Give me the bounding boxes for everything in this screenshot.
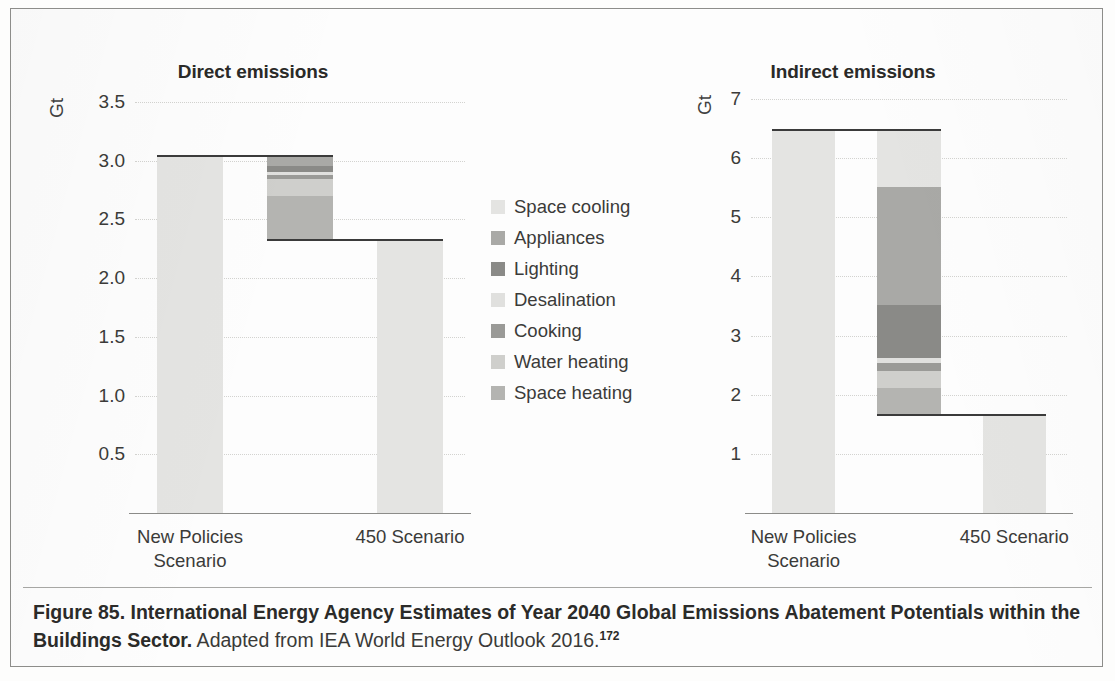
legend-item-label: Cooking bbox=[514, 320, 582, 342]
waterfall-connector-line bbox=[157, 155, 333, 157]
legend-item-label: Lighting bbox=[514, 258, 579, 280]
y-axis-tick-label: 0.5 bbox=[99, 443, 125, 465]
y-axis-unit-indirect: Gt bbox=[694, 95, 716, 115]
caption-divider bbox=[23, 587, 1092, 588]
bar-segment bbox=[877, 305, 940, 358]
x-axis-tick-label: New PoliciesScenario bbox=[137, 525, 243, 574]
x-axis-baseline bbox=[745, 513, 1073, 514]
stacked-bar bbox=[267, 155, 333, 240]
x-axis-tick-line: New Policies bbox=[751, 525, 857, 549]
x-axis-tick-label: New PoliciesScenario bbox=[751, 525, 857, 574]
plot-direct: 0.51.01.52.02.53.03.5New PoliciesScenari… bbox=[135, 102, 465, 513]
caption-footnote-marker: 172 bbox=[600, 628, 620, 642]
legend-item-label: Appliances bbox=[514, 227, 605, 249]
figure-caption: Figure 85. International Energy Agency E… bbox=[33, 599, 1083, 654]
y-axis-tick-label: 5 bbox=[730, 206, 741, 228]
chart-title-indirect: Indirect emissions bbox=[623, 61, 1083, 83]
y-axis-tick-label: 3.0 bbox=[99, 150, 125, 172]
bar-segment bbox=[877, 371, 940, 388]
y-axis-unit-direct: Gt bbox=[46, 98, 68, 118]
bar-segment bbox=[877, 129, 940, 187]
y-axis-tick-label: 1.5 bbox=[99, 326, 125, 348]
legend-swatch-icon bbox=[491, 386, 505, 400]
bar-total bbox=[772, 129, 835, 513]
bar-segment bbox=[877, 363, 940, 371]
x-axis-tick-line: 450 Scenario bbox=[960, 525, 1069, 549]
y-axis-tick-label: 3.5 bbox=[99, 91, 125, 113]
legend-item-label: Water heating bbox=[514, 351, 629, 373]
stacked-bar bbox=[877, 129, 940, 415]
waterfall-connector-line bbox=[267, 239, 443, 241]
legend-swatch-icon bbox=[491, 324, 505, 338]
y-axis-tick-label: 2.0 bbox=[99, 267, 125, 289]
legend-item-label: Space heating bbox=[514, 382, 632, 404]
legend-swatch-icon bbox=[491, 231, 505, 245]
chart-panel-direct: Direct emissions Gt 0.51.01.52.02.53.03.… bbox=[23, 19, 483, 564]
y-axis-tick-label: 1 bbox=[730, 443, 741, 465]
plot-indirect: 1234567New PoliciesScenario450 Scenario bbox=[751, 99, 1067, 513]
chart-panel-indirect: Indirect emissions Gt 1234567New Policie… bbox=[623, 19, 1083, 564]
y-axis-tick-label: 2.5 bbox=[99, 208, 125, 230]
gridline bbox=[135, 102, 465, 103]
y-axis-tick-label: 6 bbox=[730, 147, 741, 169]
chart-area: Direct emissions Gt 0.51.01.52.02.53.03.… bbox=[23, 19, 1092, 579]
waterfall-connector-line bbox=[772, 129, 941, 131]
figure-frame: Direct emissions Gt 0.51.01.52.02.53.03.… bbox=[10, 8, 1103, 667]
legend-swatch-icon bbox=[491, 262, 505, 276]
y-axis-tick-label: 4 bbox=[730, 265, 741, 287]
y-axis-tick-label: 2 bbox=[730, 384, 741, 406]
caption-source: Adapted from IEA World Energy Outlook 20… bbox=[192, 629, 599, 651]
x-axis-baseline bbox=[129, 513, 471, 514]
bar-segment bbox=[877, 187, 940, 305]
bar-segment bbox=[877, 388, 940, 415]
chart-title-direct: Direct emissions bbox=[23, 61, 483, 83]
legend-swatch-icon bbox=[491, 293, 505, 307]
y-axis-tick-label: 1.0 bbox=[99, 385, 125, 407]
x-axis-tick-line: New Policies bbox=[137, 525, 243, 549]
x-axis-tick-line: Scenario bbox=[137, 549, 243, 573]
bar-total bbox=[377, 239, 443, 513]
gridline bbox=[751, 99, 1067, 100]
x-axis-tick-line: Scenario bbox=[751, 549, 857, 573]
waterfall-connector-line bbox=[877, 414, 1046, 416]
bar-total bbox=[157, 155, 223, 513]
legend-swatch-icon bbox=[491, 200, 505, 214]
bar-total bbox=[983, 414, 1046, 513]
legend-swatch-icon bbox=[491, 355, 505, 369]
x-axis-tick-label: 450 Scenario bbox=[960, 525, 1069, 549]
x-axis-tick-label: 450 Scenario bbox=[355, 525, 464, 549]
legend-item-label: Desalination bbox=[514, 289, 616, 311]
x-axis-tick-line: 450 Scenario bbox=[355, 525, 464, 549]
figure-root: Direct emissions Gt 0.51.01.52.02.53.03.… bbox=[0, 0, 1115, 681]
legend-item-label: Space cooling bbox=[514, 196, 630, 218]
bar-segment bbox=[267, 196, 333, 239]
bar-segment bbox=[267, 179, 333, 195]
y-axis-tick-label: 7 bbox=[730, 88, 741, 110]
y-axis-tick-label: 3 bbox=[730, 325, 741, 347]
